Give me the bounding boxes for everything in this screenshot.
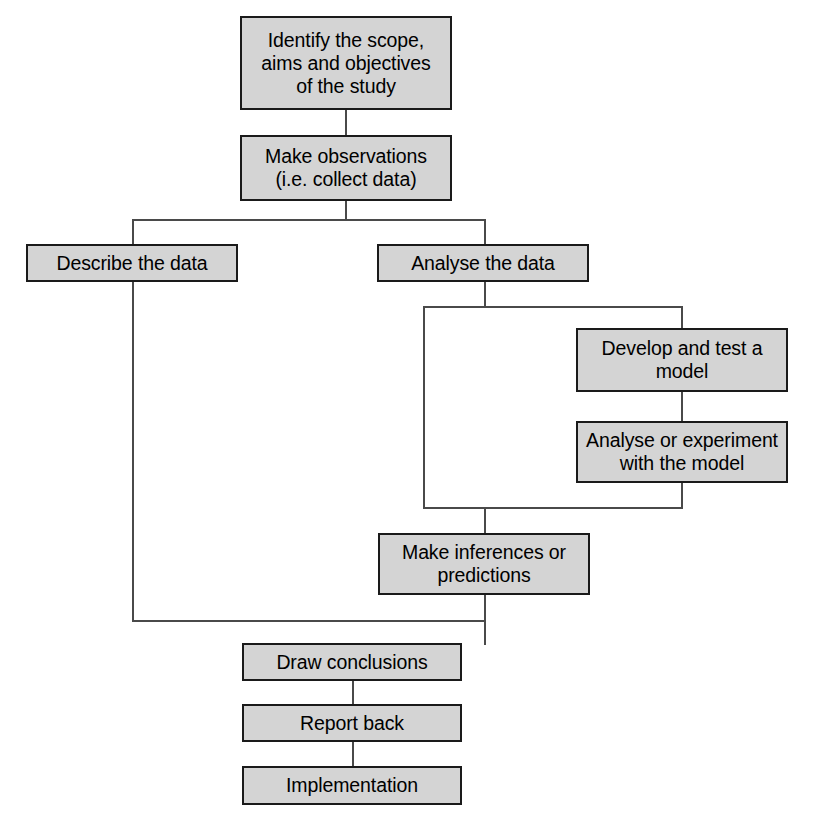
connector-describe-down-long [132,281,134,622]
node-analyse-the-data[interactable]: Analyse the data [377,244,589,282]
connector-join-above-inferences [423,507,683,509]
connector-develop-to-analyse-model [681,392,683,423]
connector-draw-down-from-junction [484,620,486,645]
connector-split-under-analyse [423,306,683,308]
connector-analyse-down-stub [484,282,486,308]
connector-analyse-model-down [681,483,683,509]
connector-observations-down-stub [345,201,347,221]
connector-to-develop-model [681,306,683,330]
node-identify-scope[interactable]: Identify the scope, aims and objectives … [240,16,452,110]
connector-identify-to-observations [345,110,347,135]
node-implementation[interactable]: Implementation [242,766,462,805]
node-develop-and-test-a-model[interactable]: Develop and test a model [576,328,788,392]
node-draw-conclusions[interactable]: Draw conclusions [242,643,462,681]
connector-describe-to-draw-horizontal [132,620,486,622]
connector-split-right-to-analyse [484,219,486,246]
node-layer: Identify the scope, aims and objectives … [0,0,817,826]
connector-split-under-observations [132,219,486,221]
connector-analyse-left-branch-down [423,306,425,509]
connector-draw-to-report [352,681,354,706]
node-analyse-or-experiment-with-the-model[interactable]: Analyse or experiment with the model [576,421,788,483]
connector-join-to-inferences [484,507,486,535]
connector-inferences-down [484,595,486,622]
node-describe-the-data[interactable]: Describe the data [26,244,238,282]
connector-split-left-to-describe [132,219,134,246]
node-report-back[interactable]: Report back [242,704,462,742]
node-make-observations[interactable]: Make observations (i.e. collect data) [240,135,452,201]
flowchart-canvas: Identify the scope, aims and objectives … [0,0,817,826]
node-make-inferences-or-predictions[interactable]: Make inferences or predictions [378,533,590,595]
connector-report-to-implementation [352,742,354,768]
